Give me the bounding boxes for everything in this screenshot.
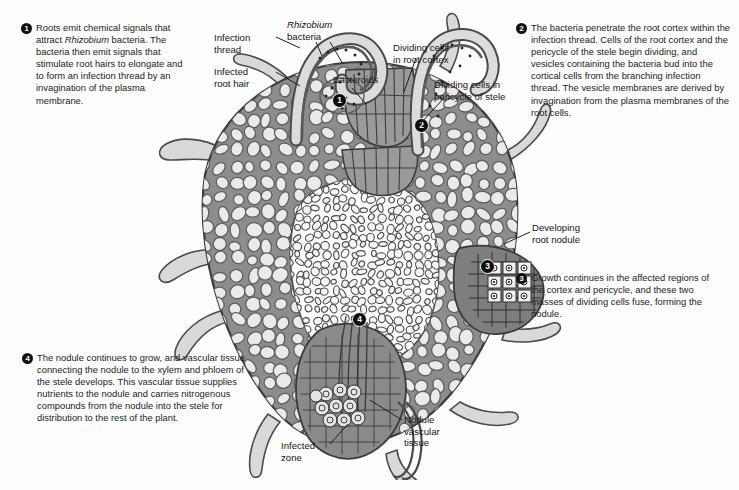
cortex-cell — [230, 177, 245, 190]
cortex-cell — [276, 177, 287, 192]
cortex-cell — [180, 159, 196, 176]
stele-cell — [314, 306, 320, 313]
cortex-cell — [187, 224, 197, 236]
label-bacteroids-text: Bacteroids — [333, 74, 378, 85]
label-developing-root-nodule: Developing root nodule — [532, 222, 594, 245]
stele-cell — [320, 288, 328, 295]
cortex-cell — [493, 346, 511, 362]
stele-cell — [375, 223, 384, 231]
cortex-cell — [488, 454, 506, 471]
stele-cell — [371, 250, 376, 256]
cortex-cell — [260, 346, 275, 359]
cortex-cell — [522, 174, 536, 186]
cortex-cell — [415, 176, 426, 189]
cortex-cell — [507, 376, 523, 391]
cortex-cell — [521, 347, 535, 363]
cortex-cell — [491, 378, 504, 391]
cortex-cell — [509, 348, 522, 360]
cortex-cell — [183, 281, 199, 296]
stele-cell — [424, 250, 432, 259]
cortex-cell — [276, 236, 291, 251]
stele-cell — [295, 251, 300, 258]
stele-cell — [413, 333, 421, 339]
cortex-cell — [201, 112, 215, 127]
cortex-cell — [199, 220, 214, 234]
step-callout-3: 3 Growth continues in the affected regio… — [516, 272, 716, 320]
label-dividing-cells-root-cortex-text: Dividing cells in root cortex — [393, 42, 449, 65]
step-badge-4: 4 — [22, 353, 33, 364]
cortex-cell — [508, 423, 527, 440]
cortex-cell — [447, 224, 458, 237]
cortex-cell — [494, 177, 506, 190]
cortex-cell — [430, 128, 440, 139]
stele-cell — [425, 243, 432, 251]
cortex-cell — [521, 378, 536, 393]
label-infected-zone-text: Infected zone — [281, 440, 315, 463]
stele-cell — [379, 241, 388, 246]
stele-cell — [387, 306, 395, 312]
label-dividing-cells-root-cortex: Dividing cells in root cortex — [393, 42, 467, 65]
label-infected-root-hair-text: Infected root hair — [214, 66, 249, 89]
stele-cell — [375, 296, 384, 303]
cortex-cell — [508, 361, 521, 376]
step-text-1: Roots emit chemical signals that attract… — [36, 22, 191, 107]
stele-cell — [292, 242, 302, 251]
cortex-cell — [183, 174, 200, 191]
stele-cell — [413, 286, 421, 294]
step-badge-3: 3 — [516, 273, 527, 284]
stele-cell — [403, 278, 414, 285]
cortex-cell — [181, 234, 199, 250]
cortex-cell — [198, 95, 211, 110]
step-text-2: The bacteria penetrate the root cortex w… — [531, 22, 732, 119]
cortex-cell — [508, 129, 521, 143]
stele-cell — [395, 325, 404, 333]
cortex-cell — [429, 450, 449, 470]
stele-cell — [302, 206, 311, 215]
cortex-cell — [196, 453, 213, 470]
stele-cell — [357, 251, 366, 257]
cortex-cell — [219, 99, 229, 113]
cortex-cell — [506, 456, 519, 468]
stele-cell — [425, 288, 432, 295]
stele-cell — [406, 261, 411, 268]
figure-canvas: 1 2 3 4 Infection thread Infected root h… — [0, 0, 739, 490]
cortex-cell — [522, 389, 541, 407]
cortex-cell — [197, 82, 214, 96]
cortex-cell — [185, 189, 200, 204]
cortex-cell — [213, 272, 227, 282]
step-callout-1: 1 Roots emit chemical signals that attra… — [21, 22, 191, 107]
cortex-cell — [480, 454, 493, 467]
label-rhizobium-bacteria-word: bacteria — [287, 31, 321, 42]
cortex-cell — [508, 437, 518, 453]
label-infection-thread-text: Infection thread — [214, 32, 250, 55]
cortex-cell — [197, 295, 214, 314]
cortex-cell — [447, 176, 461, 191]
cortex-cell — [447, 454, 465, 470]
cortex-cell — [215, 436, 231, 453]
cortex-cell — [181, 295, 198, 313]
stele-cell — [304, 271, 310, 279]
cortex-cell — [367, 453, 383, 466]
cortex-cell — [228, 454, 242, 468]
stele-cell — [340, 232, 347, 240]
stele-cell — [385, 295, 392, 305]
label-dividing-cells-pericycle-text: Dividing cells in pericycle of stele — [434, 79, 505, 102]
cortex-cell — [198, 283, 209, 299]
cortex-cell — [198, 64, 215, 80]
label-dividing-cells-pericycle: Dividing cells in pericycle of stele — [434, 79, 520, 102]
cortex-cell — [507, 390, 522, 405]
cortex-cell — [495, 361, 508, 373]
cortex-cell — [460, 173, 473, 188]
cortex-cell — [478, 438, 489, 449]
label-infected-root-hair: Infected root hair — [214, 66, 276, 89]
cortex-cell — [272, 100, 288, 110]
cortex-cell — [431, 342, 447, 358]
cortex-cell — [194, 51, 211, 66]
stele-cell — [376, 253, 386, 259]
cortex-cell — [287, 49, 304, 65]
diagram-marker-4: 4 — [352, 312, 367, 327]
stele-cell — [378, 313, 386, 322]
label-infection-thread: Infection thread — [214, 32, 276, 55]
cortex-cell — [461, 187, 473, 202]
stele-cell — [366, 233, 374, 242]
